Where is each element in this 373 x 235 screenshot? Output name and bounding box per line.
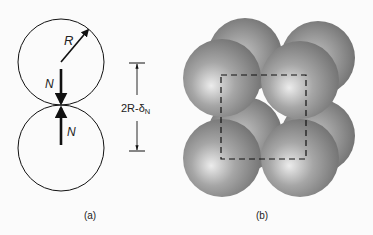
force-label-top: N	[45, 77, 54, 91]
sphere-front-bottom-right	[261, 119, 339, 197]
sphere-front-bottom-left	[183, 119, 261, 197]
sphere-front-top-right	[261, 41, 339, 119]
panel-b: (b)	[183, 18, 355, 221]
figure: R N N 2R-δN (a) (b)	[0, 0, 373, 235]
panel-a: R N N 2R-δN (a)	[18, 19, 150, 221]
panel-a-caption: (a)	[84, 210, 96, 221]
panel-b-caption: (b)	[256, 210, 268, 221]
distance-label: 2R-δN	[121, 102, 150, 116]
force-label-bottom: N	[67, 125, 76, 139]
radius-label: R	[64, 33, 73, 48]
sphere-front-top-left	[183, 39, 261, 117]
